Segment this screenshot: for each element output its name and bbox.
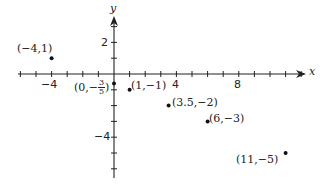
y-tick-label-neg4: −4 [94,131,110,142]
x-tick-label-8: 8 [234,79,241,90]
point-label-6-neg3: (6,−3) [209,113,244,124]
x-tick-label-4: 4 [172,79,179,90]
point-label-11-neg5: (11,−5) [236,154,278,165]
point-label-3-5-neg2: (3.5,−2) [172,97,218,108]
data-point [112,81,116,85]
data-point [50,56,54,60]
point-label-1-neg1: (1,−1) [131,80,166,91]
point-label-prefix: (0,− [74,81,98,94]
x-axis-label: x [309,66,315,77]
y-tick-label-2: 2 [101,37,108,48]
point-label-suffix: ) [105,81,109,94]
data-point [167,104,171,108]
point-label-0-neg3-5: (0,−35) [74,79,109,96]
data-points [50,56,288,155]
data-point [284,151,288,155]
point-label-neg4-1: (−4,1) [17,43,52,54]
x-tick-label-neg4: −4 [41,79,57,90]
y-axis-label: y [110,3,116,14]
